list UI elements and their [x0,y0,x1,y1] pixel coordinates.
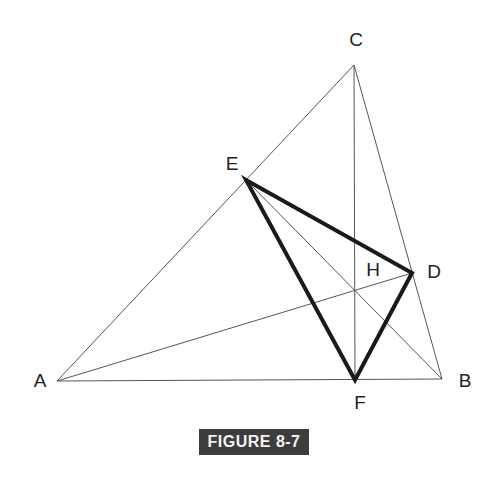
altitude-be [246,180,442,379]
segment-ab [57,379,442,381]
figure-caption: FIGURE 8-7 [199,429,309,455]
label-e: E [226,153,239,175]
label-h: H [366,259,380,281]
altitudes [57,65,442,381]
segment-bc [354,65,442,379]
label-a: A [34,370,47,392]
segment-ca [57,65,354,381]
label-c: C [349,29,363,51]
triangle-abc [57,65,442,381]
orthic-triangle-def [246,180,412,380]
orthic-triangle-diagram [0,0,497,484]
altitude-ad [57,273,412,381]
label-d: D [427,261,441,283]
label-f: F [354,392,366,414]
label-b: B [459,370,472,392]
altitude-cf [354,65,355,380]
triangle-def [246,180,412,380]
